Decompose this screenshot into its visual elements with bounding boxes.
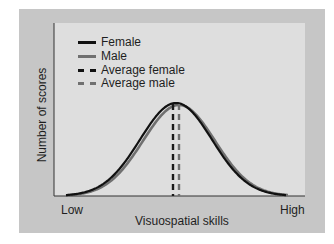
male-curve bbox=[66, 105, 288, 195]
legend-item-average-female: Average female bbox=[78, 63, 185, 77]
legend-label: Average female bbox=[101, 64, 185, 77]
solid-gray-line-icon bbox=[78, 55, 96, 58]
x-tick-low: Low bbox=[61, 203, 83, 217]
legend-item-average-male: Average male bbox=[78, 77, 185, 91]
legend-label: Female bbox=[101, 36, 141, 49]
legend-label: Male bbox=[101, 50, 127, 63]
dashed-black-line-icon bbox=[78, 69, 96, 72]
dashed-gray-line-icon bbox=[78, 82, 96, 85]
legend-item-female: Female bbox=[78, 36, 185, 50]
legend-item-male: Male bbox=[78, 50, 185, 64]
legend: Female Male Average female Average male bbox=[78, 36, 185, 91]
x-tick-high: High bbox=[280, 203, 305, 217]
x-axis-title: Visuospatial skills bbox=[135, 214, 229, 228]
y-axis-title: Number of scores bbox=[35, 68, 49, 163]
female-curve bbox=[66, 103, 286, 195]
legend-label: Average male bbox=[101, 77, 175, 90]
solid-black-line-icon bbox=[78, 41, 96, 44]
